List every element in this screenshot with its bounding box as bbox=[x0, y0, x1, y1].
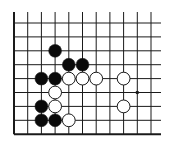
star-point-icon bbox=[136, 91, 140, 95]
white-stone-icon bbox=[62, 114, 75, 127]
white-stone-icon bbox=[49, 100, 62, 113]
white-stone-icon bbox=[49, 86, 62, 99]
black-stone-icon bbox=[49, 44, 62, 57]
black-stone-icon bbox=[62, 58, 75, 71]
white-stone-icon bbox=[117, 100, 130, 113]
white-stone-icon bbox=[90, 72, 103, 85]
black-stone-icon bbox=[76, 58, 89, 71]
black-stone-icon bbox=[35, 72, 48, 85]
black-stone-icon bbox=[49, 72, 62, 85]
star-points bbox=[136, 91, 140, 95]
black-stone-icon bbox=[35, 100, 48, 113]
white-stone-icon bbox=[117, 72, 130, 85]
board-grid bbox=[14, 12, 161, 134]
white-stone-icon bbox=[76, 72, 89, 85]
black-stone-icon bbox=[49, 114, 62, 127]
go-board bbox=[0, 0, 170, 155]
black-stone-icon bbox=[35, 114, 48, 127]
white-stone-icon bbox=[62, 72, 75, 85]
